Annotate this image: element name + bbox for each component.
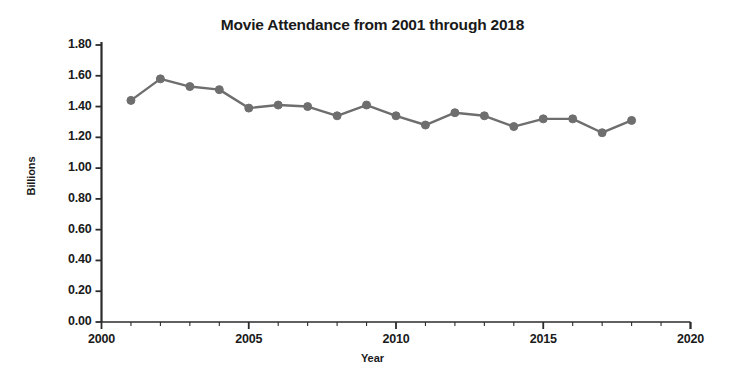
y-axis-tick-label: 0.80 <box>40 191 92 205</box>
data-point-marker: 2015: 1.32 <box>539 115 547 123</box>
y-axis-tick-label: 0.60 <box>40 222 92 236</box>
plot-area: 2001: 1.442002: 1.582003: 1.532004: 1.51… <box>0 0 745 383</box>
data-point-marker: 2017: 1.23 <box>598 129 606 137</box>
data-point-marker: 2002: 1.58 <box>156 75 164 83</box>
chart-container: Movie Attendance from 2001 through 2018 … <box>0 0 745 383</box>
data-point-marker: 2009: 1.41 <box>363 101 371 109</box>
data-line <box>131 79 632 133</box>
data-point-marker: 2008: 1.34 <box>333 112 341 120</box>
x-axis-tick-label: 2015 <box>513 332 573 346</box>
y-axis-tick-label: 1.40 <box>40 99 92 113</box>
y-axis-tick-label: 0.40 <box>40 252 92 266</box>
y-axis-tick-label: 1.00 <box>40 160 92 174</box>
data-point-marker: 2013: 1.34 <box>480 112 488 120</box>
data-series-group: 2001: 1.442002: 1.582003: 1.532004: 1.51… <box>127 75 636 137</box>
data-point-marker: 2003: 1.53 <box>186 83 194 91</box>
x-axis-tick-label: 2005 <box>219 332 279 346</box>
data-point-marker: 2006: 1.41 <box>274 101 282 109</box>
x-axis-tick-label: 2020 <box>661 332 721 346</box>
data-point-marker: 2010: 1.34 <box>392 112 400 120</box>
data-point-marker: 2018: 1.31 <box>628 116 636 124</box>
data-point-marker: 2007: 1.4 <box>304 103 312 111</box>
y-axis-tick-label: 0.00 <box>40 314 92 328</box>
data-point-marker: 2011: 1.28 <box>421 121 429 129</box>
x-axis-tick-label: 2000 <box>72 332 132 346</box>
data-point-marker: 2014: 1.27 <box>510 123 518 131</box>
y-axis-tick-label: 1.80 <box>40 37 92 51</box>
y-axis-tick-label: 0.20 <box>40 283 92 297</box>
data-point-marker: 2001: 1.44 <box>127 96 135 104</box>
y-axis-tick-label: 1.60 <box>40 68 92 82</box>
x-axis-tick-label: 2010 <box>366 332 426 346</box>
y-axis-tick-label: 1.20 <box>40 129 92 143</box>
data-point-marker: 2012: 1.36 <box>451 109 459 117</box>
data-point-marker: 2004: 1.51 <box>215 86 223 94</box>
data-point-marker: 2016: 1.32 <box>569 115 577 123</box>
data-point-marker: 2005: 1.39 <box>245 104 253 112</box>
